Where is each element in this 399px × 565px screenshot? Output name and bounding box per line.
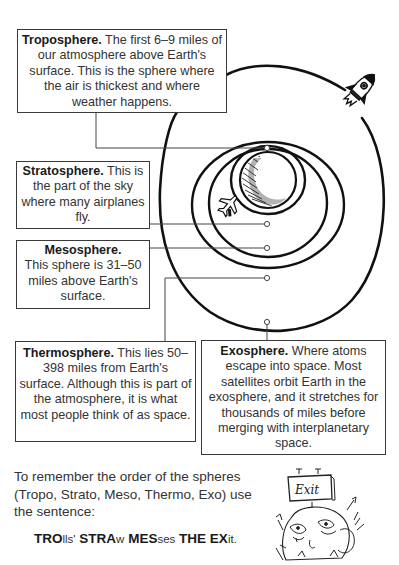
connector-troposphere [96,113,264,148]
mnemonic-word-2-bold: STRA [79,531,116,546]
thermosphere-box: Thermosphere. This lies 50–398 miles fro… [15,341,196,442]
svg-text:Exit: Exit [294,483,319,497]
connector-dot-stratosphere [264,221,269,226]
thermosphere-title: Thermosphere. [23,346,114,360]
connector-thermosphere [165,278,264,341]
connector-dot-mesosphere [264,245,269,250]
mnemonic-word-2-rest: w [116,533,124,545]
trolls-illustration: Exit [276,469,364,560]
stratosphere-title: Stratosphere. [23,164,104,178]
mesosphere-box: Mesosphere. This sphere is 31–50 miles a… [16,240,150,309]
mnemonic-word-1-rest: lls' [63,533,76,545]
mnemonic-sentence: TROlls' STRAw MESses THE EXit. [34,531,237,546]
mnemonic-word-3-rest: ses [157,533,175,545]
mesosphere-title: Mesosphere. [45,243,122,257]
mnemonic-word-3-bold: MES [128,531,157,546]
mnemonic-word-5-rest: it. [228,533,237,545]
stratosphere-box: Stratosphere. This is the part of the sk… [16,161,150,229]
connector-dot-troposphere [264,145,269,150]
connector-dot-thermosphere [264,275,269,280]
exosphere-box: Exosphere. Where atoms escape into space… [201,340,386,455]
exit-sign-icon: Exit [288,469,335,501]
exosphere-description: Where atoms escape into space. Most sate… [209,344,378,450]
connector-dot-exosphere [264,319,269,324]
airplane-icon [214,190,243,220]
mnemonic-intro: To remember the order of the spheres (Tr… [14,468,264,521]
exosphere-title: Exosphere. [220,344,288,358]
mnemonic-word-1-bold: TRO [34,531,63,546]
troposphere-box: Troposphere. The first 6–9 miles of our … [17,29,227,113]
mnemonic-word-4-bold: THE [179,531,206,546]
troposphere-title: Troposphere. [22,33,102,47]
mnemonic-word-5-bold: EX [210,531,228,546]
mesosphere-description: This sphere is 31–50 miles above Earth's… [25,258,142,303]
